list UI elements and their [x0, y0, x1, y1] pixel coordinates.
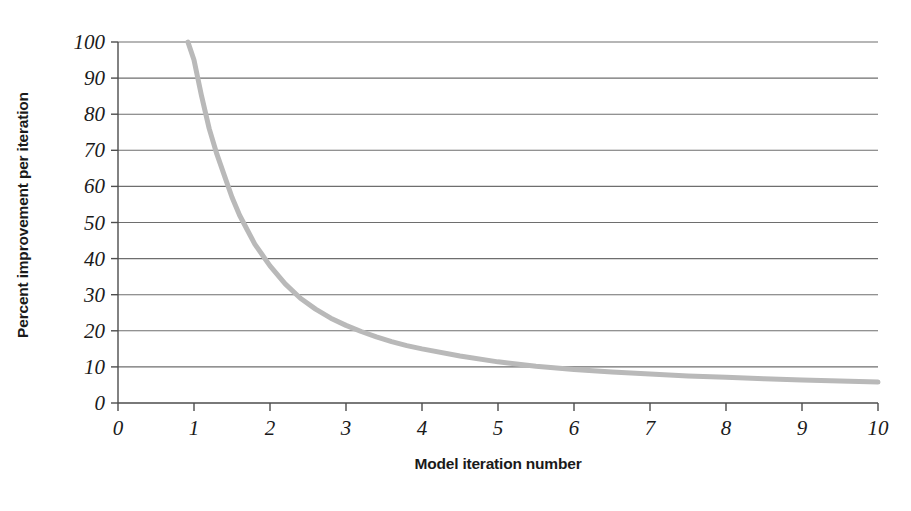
- chart-figure: Percent improvement per iteration Model …: [0, 0, 911, 511]
- y-axis-ticks: [111, 42, 118, 403]
- x-tick-label: 0: [113, 416, 124, 441]
- plot-area: [0, 0, 911, 511]
- x-tick-label: 8: [721, 416, 732, 441]
- y-tick-label: 100: [40, 30, 105, 55]
- x-axis-ticks: [118, 403, 878, 411]
- x-tick-label: 10: [868, 416, 889, 441]
- x-tick-label: 6: [569, 416, 580, 441]
- y-axis-title: Percent improvement per iteration: [8, 0, 38, 430]
- x-tick-label: 5: [493, 416, 504, 441]
- y-tick-label: 90: [40, 66, 105, 91]
- y-tick-label: 50: [40, 210, 105, 235]
- y-tick-label: 30: [40, 282, 105, 307]
- x-tick-label: 2: [265, 416, 276, 441]
- x-tick-label: 3: [341, 416, 352, 441]
- x-tick-label: 4: [417, 416, 428, 441]
- gridlines: [118, 42, 878, 367]
- y-tick-label: 70: [40, 138, 105, 163]
- x-tick-label: 9: [797, 416, 808, 441]
- x-tick-label: 1: [189, 416, 200, 441]
- y-tick-label: 20: [40, 318, 105, 343]
- y-tick-label: 80: [40, 102, 105, 127]
- x-axis-title: Model iteration number: [118, 455, 878, 473]
- x-tick-label: 7: [645, 416, 656, 441]
- y-tick-label: 60: [40, 174, 105, 199]
- y-tick-label: 10: [40, 354, 105, 379]
- y-tick-label: 40: [40, 246, 105, 271]
- y-tick-label: 0: [40, 391, 105, 416]
